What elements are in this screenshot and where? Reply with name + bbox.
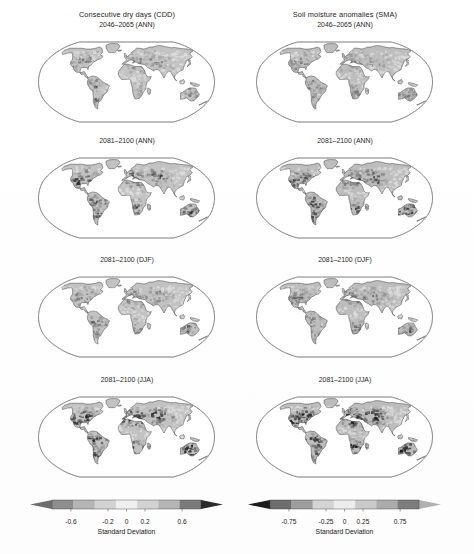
map-panel-cdd-0[interactable] — [24, 30, 229, 130]
column-title-cdd: Consecutive dry days (CDD) — [27, 10, 227, 19]
colorbar-tick-label: 0 — [125, 518, 129, 525]
map-panel-sma-2[interactable] — [242, 265, 447, 365]
colorbar-tick-label: 0.75 — [394, 518, 407, 525]
map-panel-sma-1[interactable] — [242, 146, 447, 246]
panel-title-sma-0: 2046–2065 (ANN) — [245, 21, 445, 28]
map-panel-cdd-3[interactable] — [24, 385, 229, 485]
colorbar-tick-label: 0 — [343, 518, 347, 525]
colorbar-sma-axis-label: Standard Deviation — [242, 528, 447, 535]
colorbar-tick-label: 0.2 — [140, 518, 149, 525]
colorbar-tick-label: -0.2 — [102, 518, 113, 525]
colorbar-tick-label: -0.25 — [318, 518, 333, 525]
colorbar-tick-label: -0.75 — [281, 518, 296, 525]
map-panel-cdd-1[interactable] — [24, 146, 229, 246]
colorbar-cdd: -0.6-0.200.20.6 Standard Deviation — [24, 496, 229, 542]
figure-canvas: Consecutive dry days (CDD) Soil moisture… — [22, 4, 452, 544]
panel-title-sma-3: 2081–2100 (JJA) — [245, 376, 445, 383]
colorbar-tick-label: 0.25 — [357, 518, 370, 525]
panel-title-cdd-1: 2081–2100 (ANN) — [27, 137, 227, 144]
panel-title-sma-2: 2081–2100 (DJF) — [245, 256, 445, 263]
colorbar-sma: -0.75-0.2500.250.75 Standard Deviation — [242, 496, 447, 542]
panel-title-cdd-0: 2046–2065 (ANN) — [27, 21, 227, 28]
colorbar-tick-label: -0.6 — [65, 518, 76, 525]
map-panel-sma-3[interactable] — [242, 385, 447, 485]
column-title-sma: Soil moisture anomalies (SMA) — [245, 10, 445, 19]
colorbar-cdd-axis-label: Standard Deviation — [24, 528, 229, 535]
panel-title-cdd-2: 2081–2100 (DJF) — [27, 256, 227, 263]
colorbar-tick-label: 0.6 — [178, 518, 187, 525]
map-panel-sma-0[interactable] — [242, 30, 447, 130]
panel-title-sma-1: 2081–2100 (ANN) — [245, 137, 445, 144]
map-panel-cdd-2[interactable] — [24, 265, 229, 365]
climate-figure: Consecutive dry days (CDD) Soil moisture… — [0, 0, 474, 554]
caption-strip — [0, 542, 474, 554]
panel-title-cdd-3: 2081–2100 (JJA) — [27, 376, 227, 383]
